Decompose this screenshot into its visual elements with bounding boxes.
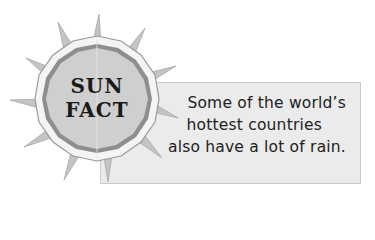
sun-label-line2: FACT [57,98,137,122]
sun-label-line1: SUN [57,74,137,98]
fact-text: Some of the world’s hottest countries al… [150,92,370,158]
fact-line-2: hottest countries [150,114,370,136]
fact-line-3: also have a lot of rain. [150,136,370,158]
sun-fact-label: SUN FACT [57,74,137,122]
fact-line-1: Some of the world’s [150,92,370,114]
